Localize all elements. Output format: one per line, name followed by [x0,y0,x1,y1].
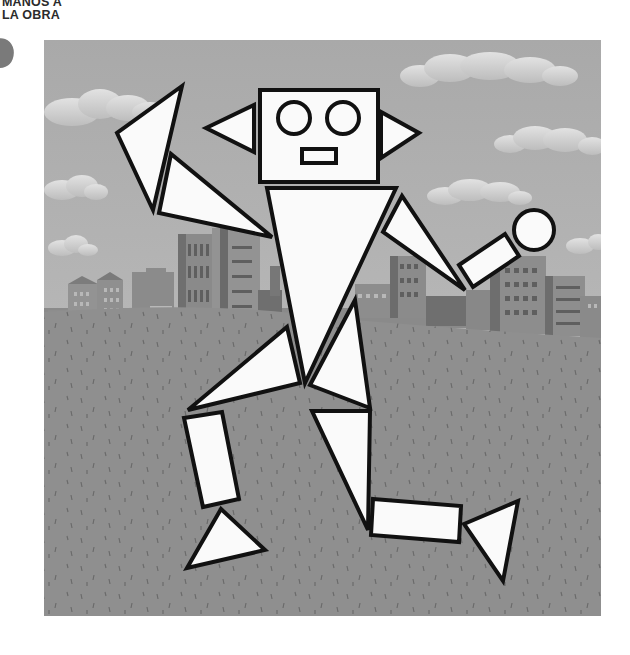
robot-head [260,90,378,182]
heading-line-2: LA OBRA [2,9,62,22]
robot-right-eye [327,102,359,134]
robot-left-eye [278,102,310,134]
section-heading: MANOS A LA OBRA [2,0,62,22]
robot-illustration [44,40,601,616]
robot-mouth [302,149,336,163]
grass-field [44,307,601,616]
robot-right-shin [371,499,461,542]
decorative-blob-icon [0,34,18,72]
robot-right-hand [514,210,554,250]
